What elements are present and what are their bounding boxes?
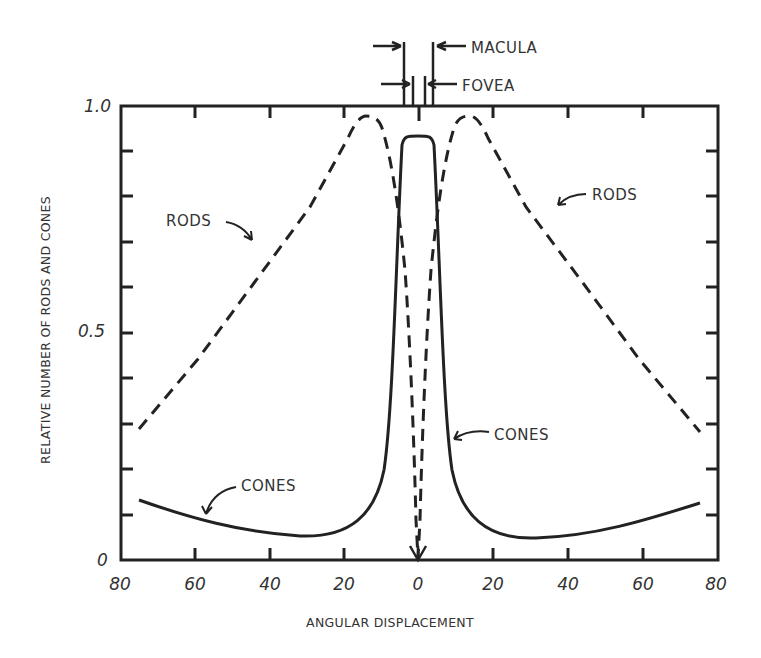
x-axis-title: ANGULAR DISPLACEMENT	[306, 615, 474, 630]
y-tick-label-top: 1.0	[84, 96, 111, 116]
rods-left-label: RODS	[166, 212, 211, 230]
y-ticks-left	[121, 151, 133, 515]
x-tick-label: 40	[557, 574, 579, 594]
y-ticks-right	[706, 151, 718, 515]
y-axis-title: RELATIVE NUMBER OF RODS AND CONES	[38, 196, 53, 464]
cones-right-label: CONES	[494, 426, 549, 444]
rods-left-callout-arrow-icon	[226, 222, 252, 240]
macula-label: MACULA	[471, 39, 538, 57]
x-tick-label: 60	[184, 574, 206, 594]
x-tick-label: 40	[259, 574, 281, 594]
rods-right-label: RODS	[592, 186, 637, 204]
y-tick-label-bottom: 0	[97, 550, 108, 570]
x-tick-label: 20	[482, 574, 504, 594]
x-tick-label: 20	[333, 574, 355, 594]
x-tick-label: 80	[705, 574, 727, 594]
macula-fovea-markers	[373, 42, 466, 106]
x-tick-label: 60	[632, 574, 654, 594]
chart-canvas: MACULA FOVEA RODS RODS CONES CONES 1.0 0…	[0, 0, 761, 658]
cones-left-callout-arrow-icon	[202, 487, 236, 514]
rods-right-callout-arrow-icon	[558, 194, 586, 205]
cones-right-callout-arrow-icon	[454, 431, 489, 440]
y-tick-label-mid: 0.5	[78, 321, 105, 341]
x-tick-label: 0	[413, 574, 424, 594]
x-ticks-top	[195, 106, 643, 121]
x-tick-label: 80	[109, 574, 131, 594]
fovea-label: FOVEA	[462, 77, 515, 95]
rods-arrow-icon	[410, 546, 426, 560]
x-tick-labels: 80 60 40 20 0 20 40 60 80	[109, 574, 727, 594]
cones-left-label: CONES	[241, 477, 296, 495]
